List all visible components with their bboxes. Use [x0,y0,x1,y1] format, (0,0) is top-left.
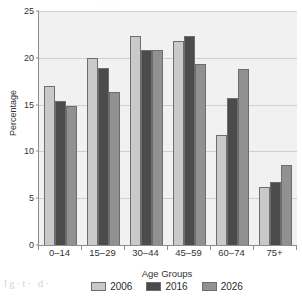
chart-legend: 200620162026 [38,281,296,292]
bar [173,41,184,245]
bars-layer [39,11,297,245]
scan-artifact-top: · · · [95,0,116,6]
bar-group [44,11,77,245]
legend-item[interactable]: 2026 [202,281,243,292]
legend-item[interactable]: 2016 [146,281,187,292]
bar [66,106,77,245]
bar [109,92,120,245]
legend-swatch [202,282,217,291]
bar [281,165,292,245]
bar-group [259,11,292,245]
bar [44,86,55,245]
x-tick-label: 30–44 [124,247,167,258]
bar [98,68,109,245]
legend-label: 2026 [221,281,243,292]
bar [55,101,66,245]
x-tick-label: 15–29 [81,247,124,258]
bar [87,58,98,245]
plot-area: 0510152025 [38,11,297,246]
bar [152,50,163,245]
y-tick-label: 25 [24,6,34,16]
bar [130,36,141,245]
x-tick-label: 75+ [253,247,296,258]
bar [227,98,238,245]
y-tick-label: 0 [29,240,34,250]
y-tick-label: 20 [24,53,34,63]
bar-group [87,11,120,245]
legend-swatch [146,282,161,291]
y-axis-title: Percentage [8,73,18,153]
legend-label: 2006 [110,281,132,292]
bar [238,69,249,245]
x-tick-label: 45–59 [167,247,210,258]
x-tick-label: 60–74 [210,247,253,258]
legend-swatch [91,282,106,291]
y-tick-label: 10 [24,146,34,156]
x-axis-title: Age Groups [38,268,296,279]
y-tick-label: 5 [29,193,34,203]
bar-chart: · · · lg·t· d· Percentage 0510152025 0–1… [0,0,302,299]
legend-item[interactable]: 2006 [91,281,132,292]
y-tick-label: 15 [24,100,34,110]
x-axis-tick-labels: 0–1415–2930–4445–5960–7475+ [38,247,296,258]
bar [195,64,206,245]
bar [216,135,227,245]
bar [184,36,195,245]
x-tick-label: 0–14 [38,247,81,258]
bar [259,187,270,245]
bar-group [173,11,206,245]
bar [141,50,152,245]
legend-label: 2016 [165,281,187,292]
x-tick-mark [296,246,297,250]
bar [270,182,281,245]
bar-group [130,11,163,245]
bar-group [216,11,249,245]
